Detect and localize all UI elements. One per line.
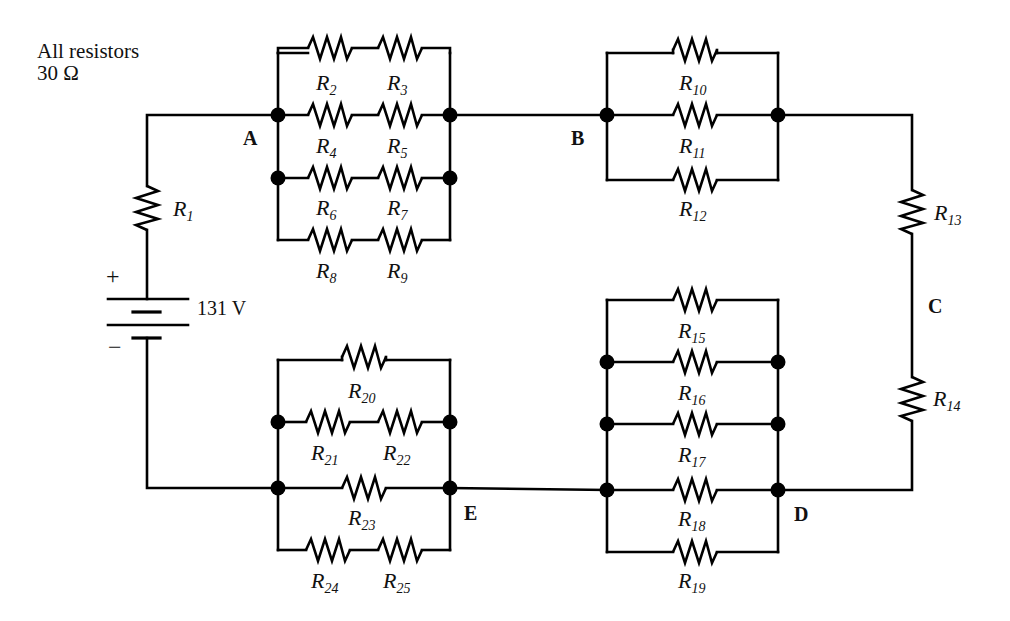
junction-b: [600, 108, 615, 123]
label-r18: R18: [678, 506, 705, 535]
wire-e-d: [450, 488, 607, 490]
label-r11: R11: [679, 133, 705, 162]
point-label-c: C: [928, 295, 942, 318]
resistor-r4: [308, 104, 352, 126]
battery-plus-sign: +: [106, 263, 120, 290]
label-r15: R15: [678, 318, 705, 347]
block-b-parallel: [600, 39, 913, 191]
label-r16: R16: [678, 380, 705, 409]
junction-node: [600, 417, 615, 432]
label-r22: R22: [383, 440, 410, 469]
junction-node: [443, 171, 458, 186]
label-r8: R8: [316, 258, 336, 287]
label-r21: R21: [311, 440, 338, 469]
resistor-r6: [308, 167, 352, 189]
resistor-r14: [901, 377, 923, 421]
resistor-r23: [342, 477, 386, 499]
junction-node: [771, 108, 786, 123]
resistor-r1: [136, 186, 158, 230]
resistor-r16: [673, 351, 717, 373]
label-r4: R4: [316, 133, 336, 162]
junction-node: [271, 481, 286, 496]
label-r5: R5: [387, 133, 407, 162]
label-r25: R25: [383, 568, 410, 597]
battery-minus-sign: −: [108, 334, 122, 361]
point-label-a: A: [243, 127, 257, 150]
resistor-r8: [308, 229, 352, 251]
point-label-e: E: [464, 502, 477, 525]
resistor-r2: [308, 37, 352, 59]
resistor-r12: [673, 169, 717, 191]
label-r24: R24: [311, 568, 338, 597]
resistor-r24: [306, 539, 350, 561]
resistor-r7: [378, 167, 422, 189]
junction-d: [771, 483, 786, 498]
junction-node: [271, 415, 286, 430]
label-r9: R9: [387, 258, 407, 287]
resistor-r10: [673, 39, 717, 61]
label-r17: R17: [678, 442, 705, 471]
resistor-r5: [378, 104, 422, 126]
battery-symbol: [108, 299, 188, 338]
label-r19: R19: [678, 568, 705, 597]
junction-a: [271, 108, 286, 123]
resistor-r21: [306, 411, 350, 433]
junction-node: [600, 355, 615, 370]
resistor-r19: [673, 541, 717, 563]
resistor-r20: [342, 346, 386, 368]
resistor-r13: [901, 190, 923, 234]
label-r2: R2: [316, 70, 336, 99]
note-all-resistors: All resistors 30 Ω: [37, 40, 139, 84]
resistor-r11: [673, 104, 717, 126]
battery-voltage-label: 131 V: [197, 297, 246, 320]
resistor-r17: [673, 413, 717, 435]
label-r12: R12: [679, 196, 706, 225]
label-r1: R1: [173, 196, 193, 225]
resistor-r15: [673, 289, 717, 311]
resistor-r3: [378, 37, 422, 59]
point-label-d: D: [794, 503, 808, 526]
label-r6: R6: [316, 195, 336, 224]
label-r10: R10: [679, 70, 706, 99]
junction-node: [443, 415, 458, 430]
note-line-2: 30 Ω: [37, 62, 139, 84]
label-r13: R13: [934, 200, 961, 229]
junction-e: [443, 481, 458, 496]
resistor-r22: [378, 411, 422, 433]
label-r23: R23: [348, 505, 375, 534]
junction-node: [443, 108, 458, 123]
label-r14: R14: [933, 386, 960, 415]
label-r20: R20: [348, 378, 375, 407]
left-branch: [108, 115, 278, 488]
circuit-diagram: [0, 0, 1010, 621]
label-r3: R3: [387, 70, 407, 99]
note-line-1: All resistors: [37, 40, 139, 62]
label-r7: R7: [387, 195, 407, 224]
junction-node: [271, 171, 286, 186]
right-branch: [778, 190, 923, 490]
resistor-r18: [673, 479, 717, 501]
junction-node: [771, 417, 786, 432]
resistor-r9: [378, 229, 422, 251]
junction-node: [771, 355, 786, 370]
resistor-r25: [378, 539, 422, 561]
point-label-b: B: [571, 127, 584, 150]
